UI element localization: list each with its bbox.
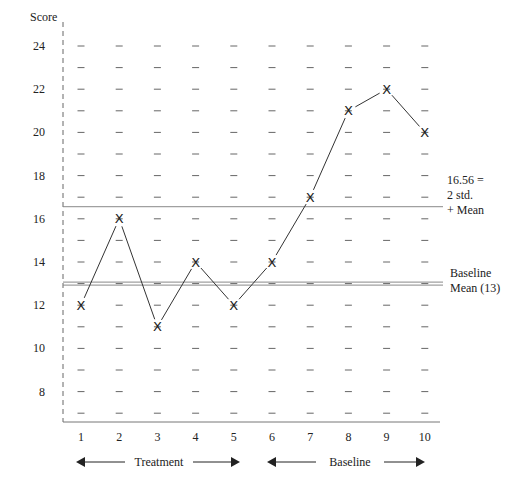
note-line: Baseline xyxy=(450,266,500,281)
x-tick-label: 9 xyxy=(384,430,390,444)
x-marker-icon: X xyxy=(115,211,124,226)
upper-line-note: 16.56 = 2 std. + Mean xyxy=(447,173,484,218)
y-tick-label: 12 xyxy=(33,298,45,312)
x-marker-icon: X xyxy=(268,255,277,270)
y-tick-label: 16 xyxy=(33,212,45,226)
score-chart: 81012141618202224 12345678910 Score XXXX… xyxy=(0,0,519,491)
x-tick-label: 6 xyxy=(269,430,275,444)
y-tick-label: 8 xyxy=(39,385,45,399)
x-tick-label: 10 xyxy=(419,430,431,444)
phase-label: Treatment xyxy=(135,455,185,469)
x-marker-icon: X xyxy=(153,319,162,334)
y-tick-labels: 81012141618202224 xyxy=(33,39,45,399)
y-tick-label: 14 xyxy=(33,255,45,269)
note-line: + Mean xyxy=(447,203,484,218)
phase-arrows: TreatmentBaseline xyxy=(76,455,425,469)
x-tick-labels: 12345678910 xyxy=(78,430,431,444)
series-segment xyxy=(161,269,191,320)
x-marker-icon: X xyxy=(191,255,200,270)
y-tick-label: 10 xyxy=(33,341,45,355)
x-tick-label: 5 xyxy=(231,430,237,444)
y-axis-title: Score xyxy=(30,10,57,24)
mean-line-note: Baseline Mean (13) xyxy=(450,266,500,296)
x-tick-label: 1 xyxy=(78,430,84,444)
note-line: 16.56 = xyxy=(447,173,484,188)
x-marker-icon: X xyxy=(382,82,391,97)
x-tick-label: 2 xyxy=(116,430,122,444)
y-tick-label: 22 xyxy=(33,82,45,96)
arrow-right-icon xyxy=(231,457,240,467)
grid-dashes xyxy=(78,46,429,413)
x-tick-label: 8 xyxy=(345,430,351,444)
series-segment xyxy=(313,118,345,190)
note-line: 2 std. xyxy=(447,188,484,203)
y-tick-label: 24 xyxy=(33,39,45,53)
series-segment xyxy=(392,95,420,126)
phase-label: Baseline xyxy=(329,455,370,469)
arrow-right-icon xyxy=(416,457,425,467)
note-line: Mean (13) xyxy=(450,281,500,296)
y-tick-label: 18 xyxy=(33,169,45,183)
x-marker-icon: X xyxy=(344,103,353,118)
x-marker-icon: X xyxy=(420,125,429,140)
series-segment xyxy=(122,226,155,319)
x-tick-label: 3 xyxy=(154,430,160,444)
series-segment xyxy=(84,226,116,298)
arrow-left-icon xyxy=(76,457,85,467)
series-segment xyxy=(239,268,267,299)
series-segment xyxy=(355,93,379,107)
x-tick-label: 7 xyxy=(307,430,313,444)
series-segment xyxy=(276,204,306,255)
x-marker-icon: X xyxy=(77,298,86,313)
data-series: XXXXXXXXXX xyxy=(77,82,430,335)
x-tick-label: 4 xyxy=(193,430,199,444)
x-marker-icon: X xyxy=(306,190,315,205)
x-marker-icon: X xyxy=(229,298,238,313)
arrow-left-icon xyxy=(267,457,276,467)
series-segment xyxy=(201,268,229,299)
y-tick-label: 20 xyxy=(33,125,45,139)
